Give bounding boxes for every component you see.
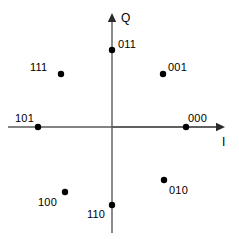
point-label-011: 011 [118,39,136,50]
point-label-010: 010 [169,185,188,196]
i-axis-arrowhead-icon [216,123,225,131]
point-label-110: 110 [87,209,105,220]
constellation-diagram: 000001011111101100110010 Q I [0,0,239,239]
q-axis-arrowhead-icon [108,13,116,22]
point-label-101: 101 [15,113,34,124]
point-label-001: 001 [168,62,187,73]
constellation-point-000 [183,124,189,130]
point-label-111: 111 [30,62,47,73]
constellation-point-101 [35,124,41,130]
constellation-point-110 [109,202,115,208]
point-label-100: 100 [38,197,57,208]
constellation-point-001 [160,71,166,77]
constellation-point-011 [109,47,115,53]
i-axis-label: I [222,136,225,148]
constellation-point-010 [161,177,167,183]
q-axis-label: Q [121,12,130,24]
constellation-point-111 [58,71,64,77]
constellation-point-100 [62,189,68,195]
point-label-000: 000 [188,113,207,124]
